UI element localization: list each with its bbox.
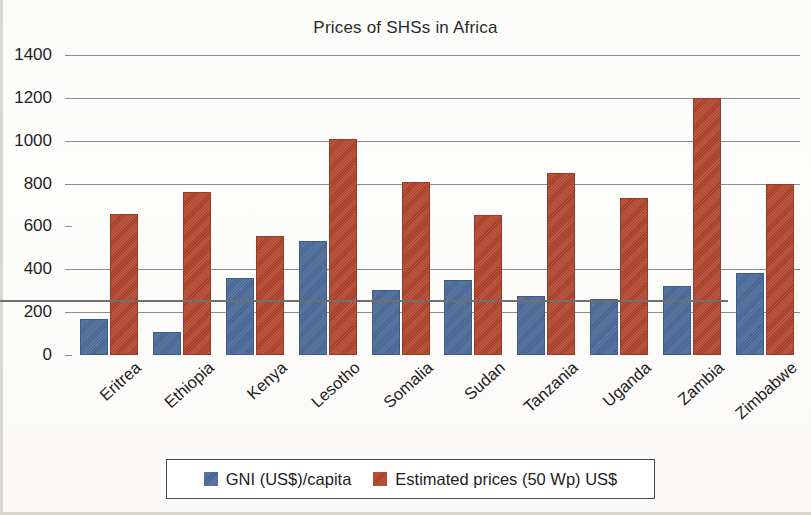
bar-zimbabwe-series-1 bbox=[766, 184, 794, 355]
y-tick-label-400: 400 bbox=[0, 259, 52, 279]
y-tick-mark-600 bbox=[65, 226, 72, 227]
bar-uganda-series-0 bbox=[590, 299, 618, 355]
x-tick-label-uganda: Uganda bbox=[599, 358, 655, 411]
bar-uganda-series-1 bbox=[620, 198, 648, 355]
y-tick-label-800: 800 bbox=[0, 174, 52, 194]
y-tick-label-1200: 1200 bbox=[0, 88, 52, 108]
bar-tanzania-series-1 bbox=[547, 173, 575, 355]
y-tick-label-600: 600 bbox=[0, 216, 52, 236]
y-tick-label-1400: 1400 bbox=[0, 45, 52, 65]
bar-group-uganda bbox=[582, 55, 655, 355]
x-tick-label-tanzania: Tanzania bbox=[520, 358, 582, 416]
y-tick-label-200: 200 bbox=[0, 302, 52, 322]
chart-page: Prices of SHSs in Africa 020040060080010… bbox=[0, 0, 811, 515]
x-tick-label-ethiopia: Ethiopia bbox=[161, 358, 218, 412]
bar-eritrea-series-1 bbox=[110, 214, 138, 355]
legend-label-0: GNI (US$)/capita bbox=[226, 470, 352, 489]
bar-zambia-series-0 bbox=[663, 286, 691, 356]
bar-kenya-series-0 bbox=[226, 278, 254, 355]
y-tick-mark-800 bbox=[65, 184, 72, 185]
bar-ethiopia-series-1 bbox=[183, 192, 211, 355]
legend-swatch-icon-1 bbox=[373, 472, 387, 486]
x-tick-label-lesotho: Lesotho bbox=[307, 358, 363, 411]
bar-kenya-series-1 bbox=[256, 236, 284, 355]
bar-group-tanzania bbox=[509, 55, 582, 355]
bar-lesotho-series-0 bbox=[299, 241, 327, 356]
y-tick-mark-1200 bbox=[65, 98, 72, 99]
bar-zambia-series-1 bbox=[693, 98, 721, 355]
y-tick-mark-200 bbox=[65, 312, 72, 313]
bar-sudan-series-1 bbox=[474, 215, 502, 355]
bar-group-somalia bbox=[363, 55, 436, 355]
y-tick-mark-1000 bbox=[65, 141, 72, 142]
bar-group-eritrea bbox=[72, 55, 145, 355]
scan-artifact-left bbox=[0, 0, 3, 515]
legend-item-1[interactable]: Estimated prices (50 Wp) US$ bbox=[373, 470, 617, 489]
chart-title: Prices of SHSs in Africa bbox=[0, 18, 811, 38]
x-tick-label-eritrea: Eritrea bbox=[96, 358, 145, 405]
x-tick-label-somalia: Somalia bbox=[379, 358, 436, 412]
bar-group-ethiopia bbox=[145, 55, 218, 355]
bar-somalia-series-1 bbox=[402, 182, 430, 355]
x-tick-label-zambia: Zambia bbox=[674, 358, 728, 409]
y-tick-mark-0 bbox=[65, 355, 72, 356]
x-axis-tick-labels: EritreaEthiopiaKenyaLesothoSomaliaSudanT… bbox=[72, 358, 800, 453]
bar-group-zambia bbox=[654, 55, 727, 355]
x-axis bbox=[0, 300, 728, 302]
bar-group-sudan bbox=[436, 55, 509, 355]
y-tick-label-0: 0 bbox=[0, 345, 52, 365]
x-tick-label-sudan: Sudan bbox=[461, 358, 509, 404]
bar-sudan-series-0 bbox=[444, 280, 472, 355]
bar-tanzania-series-0 bbox=[517, 296, 545, 355]
legend-item-0[interactable]: GNI (US$)/capita bbox=[204, 470, 352, 489]
bar-group-zimbabwe bbox=[727, 55, 800, 355]
bar-lesotho-series-1 bbox=[329, 139, 357, 355]
chart-legend: GNI (US$)/capitaEstimated prices (50 Wp)… bbox=[166, 459, 655, 499]
bar-group-lesotho bbox=[290, 55, 363, 355]
bar-group-kenya bbox=[218, 55, 291, 355]
bar-zimbabwe-series-0 bbox=[736, 273, 764, 355]
y-tick-label-1000: 1000 bbox=[0, 131, 52, 151]
x-tick-label-kenya: Kenya bbox=[243, 358, 290, 403]
bar-ethiopia-series-0 bbox=[153, 332, 181, 355]
plot-area: 0200400600800100012001400 bbox=[72, 55, 800, 355]
y-tick-mark-1400 bbox=[65, 55, 72, 56]
y-tick-mark-400 bbox=[65, 269, 72, 270]
x-tick-label-zimbabwe: Zimbabwe bbox=[731, 358, 800, 423]
legend-label-1: Estimated prices (50 Wp) US$ bbox=[395, 470, 617, 489]
legend-swatch-icon-0 bbox=[204, 472, 218, 486]
bar-eritrea-series-0 bbox=[80, 319, 108, 355]
